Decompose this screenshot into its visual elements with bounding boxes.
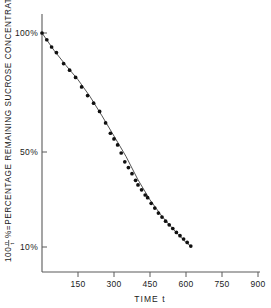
y-axis-title-rest: %=PERCENTAGE REMAINING SUCROSE CONCENTRA… [4, 0, 13, 238]
data-point [92, 101, 96, 105]
x-tick-label-300: 300 [106, 279, 121, 289]
data-point [146, 196, 150, 200]
data-point [62, 62, 66, 66]
x-tick-label-600: 600 [178, 279, 193, 289]
y-tick-label-100: 100% [15, 28, 38, 38]
y-tick-marks [42, 33, 47, 247]
data-point [109, 131, 113, 135]
data-point [182, 237, 186, 241]
data-point [119, 151, 123, 155]
data-point [140, 188, 144, 192]
data-point [127, 166, 131, 170]
data-point [104, 121, 108, 125]
data-point [86, 94, 90, 98]
y-axis-title-lead: 100 [4, 247, 13, 262]
data-point [74, 76, 78, 80]
data-point [134, 178, 138, 182]
data-point [153, 206, 157, 210]
x-tick-label-900: 900 [250, 279, 265, 289]
x-tick-label-150: 150 [70, 279, 85, 289]
data-point [189, 244, 193, 248]
data-point [116, 143, 120, 147]
data-point [40, 31, 44, 35]
data-point [175, 231, 179, 235]
data-point [160, 215, 164, 219]
y-tick-label-50: 50% [20, 147, 38, 157]
data-point [185, 241, 189, 245]
data-point [68, 68, 72, 72]
data-point [167, 223, 171, 227]
data-point [98, 110, 102, 114]
data-point [123, 160, 127, 164]
data-point [136, 183, 140, 187]
data-point [130, 172, 134, 176]
data-point [157, 211, 161, 215]
y-axis-title-group: 100 n t %=PERCENTAGE REMAINING SUCROSE C… [3, 0, 15, 262]
data-point [171, 227, 175, 231]
data-point [149, 201, 153, 205]
x-tick-marks [78, 272, 258, 277]
data-point [55, 51, 59, 55]
chart-figure: 100% 50% 10% 150 300 450 600 750 900 TIM… [0, 0, 271, 308]
data-point [50, 45, 54, 49]
x-tick-label-750: 750 [214, 279, 229, 289]
x-tick-label-450: 450 [142, 279, 157, 289]
x-axis-title: TIME t [134, 294, 166, 304]
y-tick-label-10: 10% [20, 242, 38, 252]
data-point [178, 234, 182, 238]
y-axis-title-denominator: t [9, 243, 15, 245]
data-point [112, 137, 116, 141]
data-point [80, 85, 84, 89]
data-point [45, 38, 49, 42]
data-point [164, 219, 168, 223]
plot-canvas: 100% 50% 10% 150 300 450 600 750 900 TIM… [0, 0, 271, 308]
